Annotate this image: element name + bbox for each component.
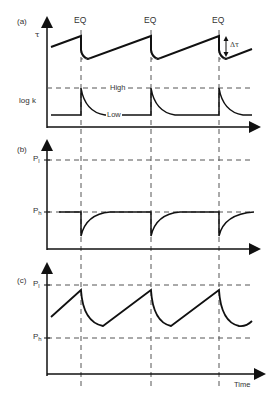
eq-label-3: EQ: [212, 16, 224, 25]
panel-a-label: (a): [17, 18, 27, 26]
time-axis-label: Time: [234, 381, 250, 389]
p-lithostatic-label-b: Pl: [33, 155, 40, 164]
eq-guide-lines: [81, 30, 219, 388]
panel-b: [44, 145, 255, 250]
low-label: Low: [106, 111, 122, 119]
eq-label-1: EQ: [74, 16, 86, 25]
p-sub-l: l: [38, 158, 39, 164]
p-sub-h: h: [38, 210, 41, 216]
high-label: High: [109, 84, 126, 92]
tau-axis-label: τ: [35, 31, 39, 39]
delta-tau-label: Δτ: [230, 42, 239, 49]
p-sub-l: l: [38, 283, 39, 289]
logk-text: log k: [19, 96, 36, 105]
p-sub-h: h: [38, 336, 41, 342]
p-lithostatic-label-c: Pl: [33, 280, 40, 289]
logk-axis-label: log k: [19, 97, 36, 105]
panel-b-label: (b): [17, 146, 27, 154]
panel-c-label: (c): [17, 277, 26, 285]
eq-label-2: EQ: [144, 16, 156, 25]
panel-c: [44, 268, 260, 376]
p-hydrostatic-label-b: Ph: [33, 207, 42, 216]
fault-valve-diagram: [0, 0, 280, 401]
p-hydrostatic-label-c: Ph: [33, 333, 42, 342]
